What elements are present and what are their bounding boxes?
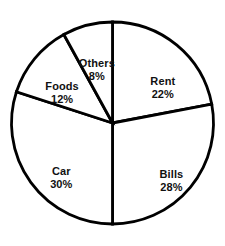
pie-label-foods: Foods12% — [45, 80, 79, 106]
pie-label-value: 22% — [150, 88, 175, 101]
pie-label-value: 12% — [45, 93, 79, 106]
pie-label-value: 28% — [160, 181, 184, 194]
pie-label-name: Foods — [45, 80, 79, 93]
pie-label-car: Car30% — [50, 165, 72, 191]
pie-label-name: Car — [50, 165, 72, 178]
pie-label-rent: Rent22% — [150, 75, 175, 101]
pie-label-name: Others — [79, 57, 115, 70]
pie-label-bills: Bills28% — [160, 168, 184, 194]
pie-chart-canvas — [0, 0, 225, 246]
pie-label-others: Others8% — [79, 57, 115, 83]
pie-label-name: Rent — [150, 75, 175, 88]
pie-label-value: 30% — [50, 178, 72, 191]
pie-label-value: 8% — [79, 70, 115, 83]
pie-chart: Rent22%Bills28%Car30%Foods12%Others8% — [0, 0, 225, 246]
pie-slice-bills — [113, 104, 214, 224]
pie-label-name: Bills — [160, 168, 184, 181]
